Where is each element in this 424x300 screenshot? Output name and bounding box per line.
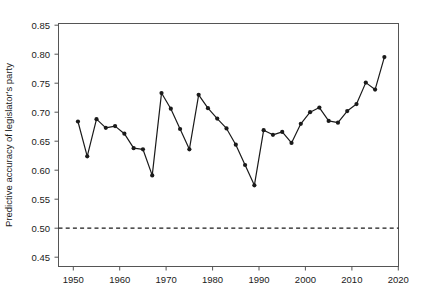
x-tick-label: 1990 — [248, 274, 269, 285]
data-point — [150, 173, 154, 177]
y-tick-label: 0.65 — [32, 136, 51, 147]
x-tick-label: 1980 — [202, 274, 223, 285]
data-point — [289, 141, 293, 145]
data-point — [308, 110, 312, 114]
plot-frame — [59, 24, 399, 267]
y-tick-label: 0.85 — [32, 20, 51, 31]
data-point — [187, 147, 191, 151]
y-tick-label: 0.70 — [32, 107, 51, 118]
x-axis-tick-labels: 19501960197019801990200020102020 — [63, 274, 409, 285]
data-point — [234, 143, 238, 147]
data-point — [76, 119, 80, 123]
data-point — [373, 87, 377, 91]
data-point — [224, 126, 228, 130]
data-point — [132, 146, 136, 150]
data-point — [262, 128, 266, 132]
y-axis-ticks — [55, 25, 59, 257]
data-point — [197, 93, 201, 97]
x-tick-label: 1970 — [156, 274, 177, 285]
x-tick-label: 2000 — [295, 274, 316, 285]
data-point — [271, 133, 275, 137]
data-point — [141, 147, 145, 151]
data-point — [94, 117, 98, 121]
y-axis-title: Predictive accuracy of legislator's part… — [3, 63, 14, 227]
data-point — [299, 122, 303, 126]
x-axis-ticks — [73, 267, 398, 271]
y-tick-label: 0.50 — [32, 223, 51, 234]
y-tick-label: 0.45 — [32, 252, 51, 263]
predictive-accuracy-line-chart: 0.450.500.550.600.650.700.750.800.85 195… — [0, 0, 424, 300]
data-point — [122, 132, 126, 136]
data-point — [169, 107, 173, 111]
y-tick-label: 0.60 — [32, 165, 51, 176]
data-point — [206, 106, 210, 110]
x-tick-label: 1950 — [63, 274, 84, 285]
data-point — [243, 163, 247, 167]
x-tick-label: 1960 — [109, 274, 130, 285]
y-tick-label: 0.75 — [32, 78, 51, 89]
data-point — [317, 105, 321, 109]
accuracy-series-points — [76, 55, 387, 187]
x-tick-label: 2010 — [341, 274, 362, 285]
data-point — [113, 124, 117, 128]
data-point — [252, 183, 256, 187]
data-point — [336, 121, 340, 125]
data-point — [382, 55, 386, 59]
data-point — [364, 81, 368, 85]
data-point — [215, 116, 219, 120]
y-axis-tick-labels: 0.450.500.550.600.650.700.750.800.85 — [32, 20, 51, 263]
y-tick-label: 0.55 — [32, 194, 51, 205]
data-point — [327, 119, 331, 123]
data-point — [345, 109, 349, 113]
data-point — [280, 130, 284, 134]
data-point — [104, 126, 108, 130]
data-point — [85, 154, 89, 158]
data-point — [178, 127, 182, 131]
y-tick-label: 0.80 — [32, 49, 51, 60]
data-point — [354, 102, 358, 106]
data-point — [159, 91, 163, 95]
x-tick-label: 2020 — [388, 274, 409, 285]
